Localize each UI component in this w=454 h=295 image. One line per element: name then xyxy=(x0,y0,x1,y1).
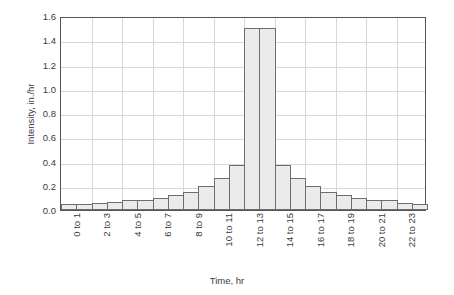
y-axis-tick-label: 0.2 xyxy=(4,182,56,192)
bar xyxy=(305,186,321,210)
x-axis-tick-label: 2 to 3 xyxy=(102,213,112,237)
bar xyxy=(61,204,77,210)
x-axis-tick-label: 16 to 17 xyxy=(316,213,326,247)
bar xyxy=(381,200,397,210)
x-axis-tick-label: 0 to 1 xyxy=(72,213,82,237)
x-axis-tick-label: 6 to 7 xyxy=(163,213,173,237)
bar xyxy=(153,198,169,210)
bar xyxy=(183,192,199,210)
x-axis-tick-label: 18 to 19 xyxy=(346,213,356,247)
y-axis-tick-label: 1.0 xyxy=(4,85,56,95)
bar xyxy=(137,200,153,210)
bar xyxy=(229,165,245,210)
bar xyxy=(290,178,306,210)
x-axis-tick-label: 4 to 5 xyxy=(133,213,143,237)
y-axis-tick-label: 1.4 xyxy=(4,37,56,47)
x-axis-tick-label: 20 to 21 xyxy=(377,213,387,247)
bar xyxy=(92,203,108,210)
bar xyxy=(259,28,275,210)
bar xyxy=(107,202,123,210)
y-axis-tick-labels: 0.00.20.40.60.81.01.21.41.6 xyxy=(0,0,56,295)
x-axis-tick-label: 10 to 11 xyxy=(224,213,234,247)
x-axis-tick-labels: 0 to 12 to 34 to 56 to 78 to 910 to 1112… xyxy=(60,213,426,271)
bar xyxy=(351,198,367,210)
plot-area xyxy=(60,17,426,211)
bar xyxy=(168,195,184,210)
x-axis-tick-label: 14 to 15 xyxy=(285,213,295,247)
bar xyxy=(397,203,413,210)
bars-container xyxy=(61,18,425,210)
bar xyxy=(244,28,260,210)
y-axis-tick-label: 1.2 xyxy=(4,61,56,71)
bar xyxy=(320,192,336,210)
bar xyxy=(122,200,138,210)
y-axis-tick-label: 0.6 xyxy=(4,134,56,144)
bar xyxy=(275,165,291,210)
intensity-vs-time-bar-chart: Intensity, in./hr 0.00.20.40.60.81.01.21… xyxy=(0,0,454,295)
bar xyxy=(412,204,428,210)
bar xyxy=(198,186,214,210)
y-axis-tick-label: 0.8 xyxy=(4,109,56,119)
bar xyxy=(366,200,382,210)
y-axis-tick-label: 0.0 xyxy=(4,206,56,216)
x-axis-tick-label: 8 to 9 xyxy=(194,213,204,237)
bar xyxy=(336,195,352,210)
y-axis-tick-label: 1.6 xyxy=(4,12,56,22)
bar xyxy=(214,178,230,210)
bar xyxy=(76,204,92,210)
x-axis-tick-label: 22 to 23 xyxy=(407,213,417,247)
y-axis-tick-label: 0.4 xyxy=(4,158,56,168)
x-axis-title: Time, hr xyxy=(0,275,454,286)
x-axis-tick-label: 12 to 13 xyxy=(255,213,265,247)
